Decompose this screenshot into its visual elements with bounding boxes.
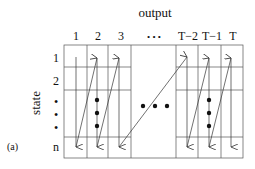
- column-label-T-2: T−2: [178, 29, 198, 43]
- column-label-T: T: [229, 29, 237, 43]
- column-label-ellipsis: • • •: [147, 32, 161, 42]
- y-axis-title: state: [28, 91, 43, 115]
- row-label-dot-3: •: [54, 121, 58, 135]
- column-label-2: 2: [95, 29, 101, 43]
- x-axis-title: output: [138, 5, 172, 20]
- column-label-1: 1: [73, 29, 79, 43]
- transition-arrows: [76, 57, 231, 147]
- row-label-dot-1: •: [54, 95, 58, 109]
- row-label-n: n: [53, 140, 59, 154]
- row-label-dot-2: •: [54, 108, 58, 122]
- column-label-T-1: T−1: [202, 29, 222, 43]
- panel-label: (a): [7, 141, 18, 153]
- row-label-1: 1: [53, 51, 59, 65]
- column-label-3: 3: [118, 29, 124, 43]
- trellis-diagram: output state (a) 1 2 3 • • • T−2 T−1 T 1…: [0, 0, 255, 169]
- row-label-2: 2: [53, 74, 59, 88]
